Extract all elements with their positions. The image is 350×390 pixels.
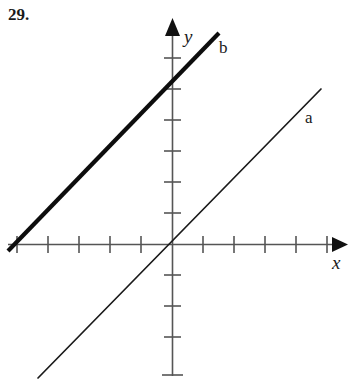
line-b [8,33,219,251]
y-axis-arrow-icon [165,18,180,36]
line-a [38,89,321,378]
line-a-label: a [305,108,313,128]
line-b-label: b [219,38,228,58]
x-axis [8,236,348,253]
coordinate-plane [0,0,350,390]
y-axis-label: y [184,26,192,48]
x-axis-label: x [332,252,340,274]
x-axis-arrow-icon [332,237,348,252]
